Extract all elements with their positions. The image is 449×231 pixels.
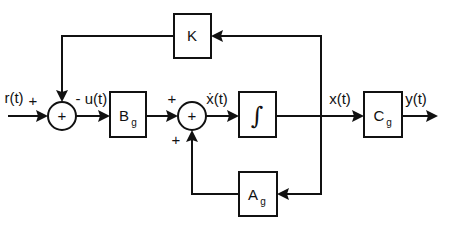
signal-r-label: r(t)	[4, 89, 23, 106]
sum1-symbol: +	[58, 107, 67, 124]
block-k-label: K	[187, 27, 197, 44]
ag-feedback-line-left	[192, 138, 239, 194]
sum1-sign-left: +	[29, 92, 38, 109]
block-k: K	[174, 14, 211, 58]
signal-u-label: u(t)	[85, 90, 108, 107]
block-bg-label: B	[119, 107, 129, 124]
signal-xdot-label: ẋ(t)	[206, 90, 228, 107]
integral-icon: ∫	[251, 102, 264, 130]
block-integrator: ∫	[239, 92, 276, 137]
block-cg: C g	[364, 92, 402, 137]
signal-x-label: x(t)	[329, 90, 351, 107]
block-diagram: + + - + + + K B g ∫ C g A g r(t) u(t) ẋ(…	[0, 0, 449, 231]
summing-junction-1: +	[48, 102, 76, 130]
block-cg-subscript: g	[386, 117, 392, 128]
sum2-symbol: +	[188, 107, 197, 124]
block-cg-label: C	[374, 107, 385, 124]
block-bg-subscript: g	[131, 117, 137, 128]
sum1-sign-top: -	[76, 90, 81, 107]
signal-y-label: y(t)	[405, 90, 427, 107]
block-ag: A g	[239, 172, 277, 216]
summing-junction-2: +	[178, 102, 206, 130]
ag-feedback-line-right	[285, 116, 321, 194]
k-feedback-line-left	[62, 36, 174, 94]
block-ag-subscript: g	[260, 196, 266, 207]
sum2-sign-bottom: +	[172, 131, 181, 148]
block-ag-label: A	[248, 186, 258, 203]
block-bg: B g	[110, 92, 146, 137]
sum2-sign-left: +	[168, 90, 177, 107]
